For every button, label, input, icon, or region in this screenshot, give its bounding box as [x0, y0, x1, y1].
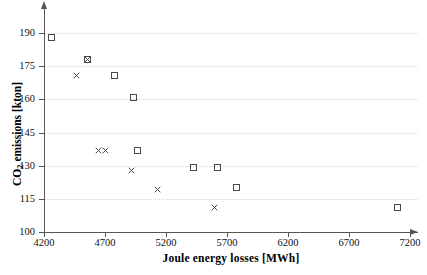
y-axis-tick — [39, 66, 44, 67]
data-point-square — [111, 72, 118, 79]
data-point-square — [48, 34, 55, 41]
y-axis-title-suffix: emissions [kton] — [11, 82, 23, 164]
y-axis-tick — [39, 99, 44, 100]
data-point-square — [214, 164, 221, 171]
data-point-cross — [211, 204, 218, 211]
gridline — [44, 133, 418, 134]
gridline — [44, 166, 418, 167]
x-axis-tick-label: 4700 — [82, 237, 128, 248]
x-axis-line — [44, 232, 418, 233]
gridline — [44, 199, 418, 200]
x-axis-tick-label: 4200 — [21, 237, 67, 248]
x-axis-tick-label: 7200 — [387, 237, 427, 248]
plot-area — [44, 33, 410, 232]
x-axis-tick-label: 5200 — [143, 237, 189, 248]
y-axis-arrow-icon — [41, 1, 47, 9]
gridline — [44, 99, 418, 100]
data-point-cross — [73, 72, 80, 79]
data-point-square — [134, 147, 141, 154]
y-axis-title-prefix: CO — [11, 169, 23, 186]
data-point-cross — [154, 186, 161, 193]
y-axis-tick — [39, 33, 44, 34]
x-axis-arrow-icon — [410, 229, 418, 235]
x-axis-tick-label: 6700 — [326, 237, 372, 248]
x-axis-title: Joule energy losses [MWh] — [44, 252, 418, 264]
data-point-cross — [84, 56, 91, 63]
scatter-chart: 1001151301451601751904200470052005700620… — [0, 0, 427, 275]
x-axis-tick-label: 6200 — [265, 237, 311, 248]
y-axis-title-subscript: 2 — [15, 164, 25, 168]
data-point-square — [130, 94, 137, 101]
y-axis-tick — [39, 199, 44, 200]
y-axis-title: CO2 emissions [kton] — [11, 29, 23, 239]
data-point-square — [233, 184, 240, 191]
gridline — [44, 66, 418, 67]
y-axis-tick — [39, 166, 44, 167]
data-point-square — [190, 164, 197, 171]
y-axis-tick — [39, 133, 44, 134]
data-point-square — [394, 204, 401, 211]
data-point-cross — [128, 167, 135, 174]
y-axis-line — [44, 8, 45, 232]
gridline — [44, 33, 418, 34]
data-point-cross — [102, 147, 109, 154]
x-axis-tick-label: 5700 — [204, 237, 250, 248]
